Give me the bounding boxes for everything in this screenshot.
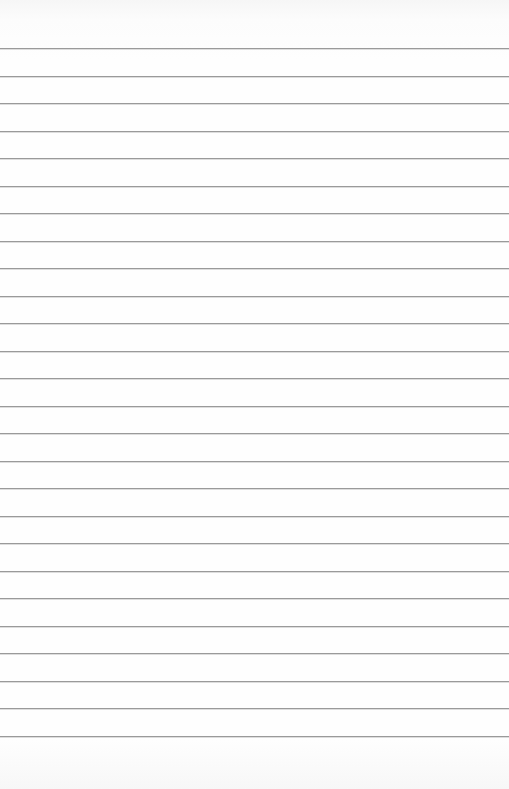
- ruled-line: [0, 131, 509, 132]
- ruled-line: [0, 241, 509, 242]
- ruled-line: [0, 488, 509, 489]
- ruled-line: [0, 268, 509, 269]
- ruled-line: [0, 323, 509, 324]
- ruled-line: [0, 571, 509, 572]
- ruled-line: [0, 296, 509, 297]
- ruled-line: [0, 653, 509, 654]
- ruled-line: [0, 543, 509, 544]
- ruled-line: [0, 681, 509, 682]
- ruled-line: [0, 598, 509, 599]
- ruled-line: [0, 351, 509, 352]
- ruled-line: [0, 708, 509, 709]
- ruled-line: [0, 406, 509, 407]
- ruled-line: [0, 516, 509, 517]
- ruled-line: [0, 76, 509, 77]
- ruled-line: [0, 158, 509, 159]
- ruled-line: [0, 461, 509, 462]
- ruled-line: [0, 103, 509, 104]
- lined-paper-page: [0, 0, 509, 789]
- ruled-line: [0, 626, 509, 627]
- ruled-line: [0, 736, 509, 737]
- ruled-line: [0, 378, 509, 379]
- ruled-line: [0, 48, 509, 49]
- ruled-line: [0, 213, 509, 214]
- ruled-line: [0, 433, 509, 434]
- ruled-line: [0, 186, 509, 187]
